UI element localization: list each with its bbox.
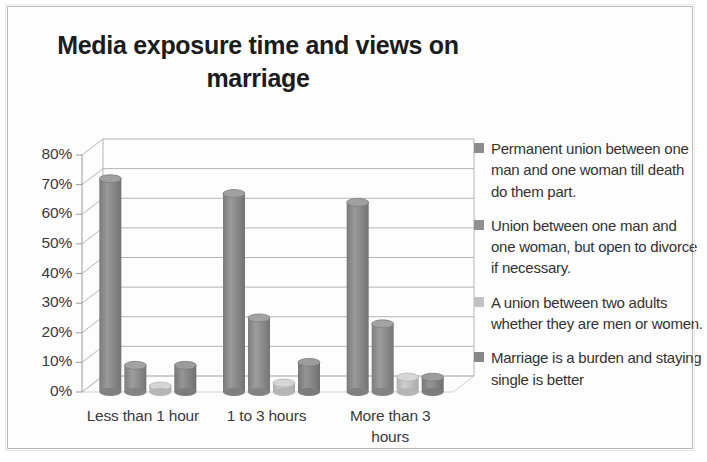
- legend-item-label: Permanent union between one man and one …: [491, 138, 704, 202]
- legend-swatch-icon: [474, 220, 484, 230]
- bar-more-than-3-hours-series-4: [422, 373, 444, 396]
- bar-more-than-3-hours-series-3: [397, 373, 419, 396]
- legend-item-label: Union between one man and one woman, but…: [491, 215, 704, 279]
- bar-1-to-3-hours-series-3: [273, 379, 295, 396]
- x-axis-category-label: More than 3 hours: [331, 406, 449, 448]
- y-axis-tick-label: 40%: [20, 264, 72, 282]
- bar-1-to-3-hours-series-4: [298, 358, 320, 396]
- y-axis-tick-label: 30%: [20, 293, 72, 311]
- legend-item-label: A union between two adults whether they …: [491, 292, 704, 335]
- bar-less-than-1-hour-series-3: [149, 382, 171, 396]
- legend-item: Permanent union between one man and one …: [474, 138, 704, 202]
- x-axis-category-label: Less than 1 hour: [84, 406, 202, 427]
- y-axis-tick-label: 80%: [20, 145, 72, 163]
- legend-swatch-icon: [474, 143, 484, 153]
- x-axis-category-label: 1 to 3 hours: [208, 406, 326, 427]
- legend-swatch-icon: [474, 297, 484, 307]
- y-axis-tick-label: 20%: [20, 323, 72, 341]
- bar-1-to-3-hours-series-2: [248, 314, 270, 396]
- y-axis-tick-label: 70%: [20, 175, 72, 193]
- y-axis-tick-label: 50%: [20, 234, 72, 252]
- chart-legend: Permanent union between one man and one …: [474, 138, 704, 403]
- bar-1-to-3-hours-series-1: [223, 190, 245, 396]
- y-axis-tick-label: 10%: [20, 352, 72, 370]
- legend-item: Union between one man and one woman, but…: [474, 215, 704, 279]
- bar-less-than-1-hour-series-1: [99, 175, 121, 396]
- legend-swatch-icon: [474, 352, 484, 362]
- bar-less-than-1-hour-series-2: [124, 361, 146, 396]
- y-axis-tick-label: 0%: [20, 382, 72, 400]
- legend-item-label: Marriage is a burden and staying single …: [491, 347, 704, 390]
- bar-more-than-3-hours-series-1: [347, 198, 369, 396]
- bar-more-than-3-hours-series-2: [372, 320, 394, 396]
- chart-frame: Media exposure time and views on marriag…: [7, 6, 693, 449]
- y-axis-tick-label: 60%: [20, 204, 72, 222]
- legend-item: A union between two adults whether they …: [474, 292, 704, 335]
- legend-item: Marriage is a burden and staying single …: [474, 347, 704, 390]
- bar-less-than-1-hour-series-4: [174, 361, 196, 396]
